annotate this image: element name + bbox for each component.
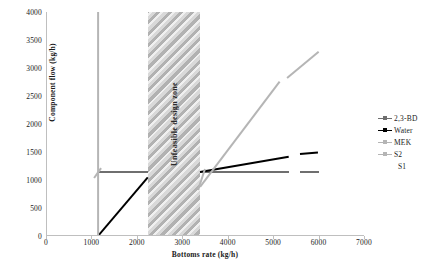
series-segment [97,12,99,236]
y-tick-label: 3500 [26,36,42,45]
chart-figure: 05001000150020002500300035004000 Compone… [0,0,438,277]
x-tick-label: 3000 [174,238,190,247]
legend-item[interactable]: 2,3-BD [378,112,436,124]
series-segment [200,171,289,173]
legend-marker-icon [378,139,392,146]
legend-label: 2,3-BD [392,114,418,123]
series-segment [97,176,149,236]
y-tick-label: 1000 [26,176,42,185]
series-segment [300,171,318,173]
series-segment [286,51,319,79]
plot-surface: Unfeasible design zone [46,12,364,236]
y-tick-label: 4000 [26,8,42,17]
x-tick-label: 6000 [311,238,327,247]
y-tick-label: 500 [30,204,42,213]
legend-marker-icon [378,127,392,134]
y-tick-label: 1500 [26,148,42,157]
x-tick-label: 7000 [356,238,372,247]
x-tick-label: 1000 [84,238,100,247]
y-tick-label: 0 [38,232,42,241]
x-tick-label: 4000 [220,238,236,247]
x-axis-title: Bottoms rate (kg/h) [46,250,364,259]
x-tick-label: 5000 [265,238,281,247]
x-tick-label: 0 [44,238,48,247]
series-segment [98,171,148,173]
y-axis-tick-labels: 05001000150020002500300035004000 [0,12,42,236]
legend-item[interactable]: MEK [378,136,436,148]
legend-label: Water [392,126,413,135]
y-axis-line [46,12,47,236]
legend-item[interactable]: S2 [378,148,436,160]
y-tick-label: 2000 [26,120,42,129]
legend-marker-icon [378,115,392,122]
y-tick-label: 2500 [26,92,42,101]
legend-marker-icon [378,151,392,158]
series-segment [300,152,318,156]
legend-item[interactable]: Water [378,124,436,136]
x-tick-label: 2000 [129,238,145,247]
chart-legend: 2,3-BDWaterMEKS2S1 [378,112,436,172]
unfeasible-design-zone-band: Unfeasible design zone [148,12,200,236]
y-tick-label: 3000 [26,64,42,73]
plot-area: Unfeasible design zone [46,12,364,236]
unfeasible-design-zone-label: Unfeasible design zone [170,82,179,166]
x-axis-tick-labels: 01000200030004000500060007000 [46,236,364,250]
legend-label: S1 [392,162,406,171]
legend-label: S2 [392,150,402,159]
legend-item[interactable]: S1 [378,160,436,172]
legend-label: MEK [392,138,411,147]
